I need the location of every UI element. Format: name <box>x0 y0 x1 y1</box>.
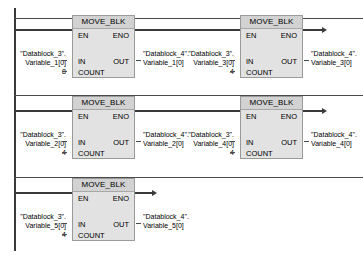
eno-terminator-icon <box>322 27 327 33</box>
rung-2-wire-en-1 <box>14 110 72 112</box>
operand-count-value: 4 <box>62 149 66 158</box>
operand-count-value: 4 <box>230 149 234 158</box>
rung-1-wire-eno-out <box>303 29 322 31</box>
operand-in-variable: Variable_2[0] <box>20 140 66 149</box>
operand-out-variable: Variable_1[0] <box>143 59 189 68</box>
pin-in[interactable]: IN <box>246 57 254 66</box>
operand-out-datablock: "Datablock_4". <box>311 131 357 140</box>
operand-in[interactable]: "Datablock_3". Variable_4[0] <box>188 131 234 148</box>
stub-in <box>230 141 235 142</box>
operand-count-value: 4 <box>62 231 66 240</box>
pin-eno[interactable]: ENO <box>113 194 129 203</box>
operand-out-variable: Variable_4[0] <box>311 140 357 149</box>
operand-in-datablock: "Datablock_3". <box>20 131 66 140</box>
pin-count[interactable]: COUNT <box>78 149 105 158</box>
operand-in[interactable]: "Datablock_3". Variable_1[0] <box>20 50 66 67</box>
operand-count[interactable]: 4 <box>230 68 234 77</box>
operand-count[interactable]: 4 <box>62 231 66 240</box>
pin-eno[interactable]: ENO <box>281 31 297 40</box>
operand-in[interactable]: "Datablock_3". Variable_2[0] <box>20 131 66 148</box>
network-separator-3 <box>14 177 363 178</box>
pin-out[interactable]: OUT <box>281 138 297 147</box>
pin-count[interactable]: COUNT <box>246 68 273 77</box>
rung-1-wire-en-1 <box>14 29 72 31</box>
pin-en[interactable]: EN <box>78 31 88 40</box>
pin-eno[interactable]: ENO <box>113 31 129 40</box>
operand-in-variable: Variable_3[0] <box>188 59 234 68</box>
network-separator-2 <box>14 95 363 96</box>
stub-in <box>62 223 67 224</box>
operand-in-variable: Variable_5[0] <box>20 222 66 231</box>
stub-in <box>62 141 67 142</box>
pin-in[interactable]: IN <box>78 220 86 229</box>
function-block-title: MOVE_BLK <box>241 16 302 29</box>
operand-out[interactable]: "Datablock_4". Variable_5[0] <box>143 213 189 230</box>
operand-in-datablock: "Datablock_3". <box>188 50 234 59</box>
pin-out[interactable]: OUT <box>113 57 129 66</box>
operand-in-datablock: "Datablock_3". <box>188 131 234 140</box>
eno-terminator-icon <box>152 190 157 196</box>
operand-in[interactable]: "Datablock_3". Variable_5[0] <box>20 213 66 230</box>
function-block-move-blk[interactable]: MOVE_BLK EN ENO IN OUT COUNT <box>240 96 303 159</box>
function-block-title: MOVE_BLK <box>73 179 134 192</box>
rung-3-wire-eno-out <box>135 192 152 194</box>
network-separator-1 <box>14 18 363 19</box>
pin-en[interactable]: EN <box>78 194 88 203</box>
pin-out[interactable]: OUT <box>281 57 297 66</box>
stub-out <box>304 141 309 142</box>
rung-2-wire-eno-to-en <box>135 110 240 112</box>
operand-count[interactable]: 4 <box>230 149 234 158</box>
operand-out-datablock: "Datablock_4". <box>311 50 357 59</box>
operand-out-variable: Variable_3[0] <box>311 59 357 68</box>
operand-count-value: 4 <box>230 68 234 77</box>
pin-en[interactable]: EN <box>246 31 256 40</box>
stub-in <box>62 60 67 61</box>
stub-count <box>230 71 235 72</box>
pin-out[interactable]: OUT <box>113 138 129 147</box>
pin-en[interactable]: EN <box>246 112 256 121</box>
pin-in[interactable]: IN <box>78 138 86 147</box>
stub-out <box>304 60 309 61</box>
pin-in[interactable]: IN <box>78 57 86 66</box>
operand-out[interactable]: "Datablock_4". Variable_2[0] <box>143 131 189 148</box>
pin-count[interactable]: COUNT <box>78 68 105 77</box>
function-block-title: MOVE_BLK <box>241 97 302 110</box>
stub-out <box>136 60 141 61</box>
operand-out-datablock: "Datablock_4". <box>143 131 189 140</box>
pin-en[interactable]: EN <box>78 112 88 121</box>
operand-count[interactable]: 4 <box>62 149 66 158</box>
function-block-move-blk[interactable]: MOVE_BLK EN ENO IN OUT COUNT <box>72 178 135 241</box>
power-rail <box>14 8 16 251</box>
stub-out <box>136 141 141 142</box>
stub-count <box>62 152 67 153</box>
function-block-title: MOVE_BLK <box>73 16 134 29</box>
function-block-move-blk[interactable]: MOVE_BLK EN ENO IN OUT COUNT <box>72 96 135 159</box>
operand-out-datablock: "Datablock_4". <box>143 50 189 59</box>
operand-in-variable: Variable_1[0] <box>20 59 66 68</box>
function-block-move-blk[interactable]: MOVE_BLK EN ENO IN OUT COUNT <box>240 15 303 78</box>
function-block-move-blk[interactable]: MOVE_BLK EN ENO IN OUT COUNT <box>72 15 135 78</box>
stub-in <box>230 60 235 61</box>
pin-out[interactable]: OUT <box>113 220 129 229</box>
stub-count <box>62 234 67 235</box>
operand-out-variable: Variable_2[0] <box>143 140 189 149</box>
operand-out[interactable]: "Datablock_4". Variable_4[0] <box>311 131 357 148</box>
operand-out[interactable]: "Datablock_4". Variable_1[0] <box>143 50 189 67</box>
operand-in-datablock: "Datablock_3". <box>20 213 66 222</box>
pin-eno[interactable]: ENO <box>113 112 129 121</box>
pin-count[interactable]: COUNT <box>246 149 273 158</box>
rung-1-wire-eno-to-en <box>135 29 240 31</box>
rung-2-wire-eno-out <box>303 110 322 112</box>
operand-out-variable: Variable_5[0] <box>143 222 189 231</box>
pin-eno[interactable]: ENO <box>281 112 297 121</box>
operand-out[interactable]: "Datablock_4". Variable_3[0] <box>311 50 357 67</box>
pin-in[interactable]: IN <box>246 138 254 147</box>
operand-in-datablock: "Datablock_3". <box>20 50 66 59</box>
operand-count[interactable]: 8 <box>62 68 66 77</box>
rung-3-wire-en-1 <box>14 192 72 194</box>
operand-in[interactable]: "Datablock_3". Variable_3[0] <box>188 50 234 67</box>
stub-count <box>62 71 67 72</box>
stub-out <box>136 223 141 224</box>
lad-network-canvas: MOVE_BLK EN ENO IN OUT COUNT "Datablock_… <box>0 0 363 260</box>
pin-count[interactable]: COUNT <box>78 231 105 240</box>
